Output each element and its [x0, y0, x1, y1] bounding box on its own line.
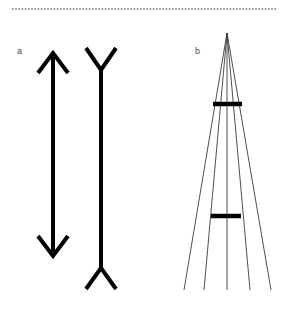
separator-dot — [274, 8, 276, 10]
separator-dot — [220, 8, 222, 10]
separator-dot — [146, 8, 148, 10]
separator-dot — [22, 8, 24, 10]
separator-dot — [172, 8, 174, 10]
separator-dot — [134, 8, 136, 10]
converging-line — [204, 33, 227, 290]
separator-dot — [31, 8, 33, 10]
separator-dot — [223, 8, 225, 10]
separator-dot — [175, 8, 177, 10]
separator-dot — [198, 8, 200, 10]
converging-line — [227, 33, 271, 290]
separator-dot — [47, 8, 49, 10]
separator-dot — [143, 8, 145, 10]
separator-dot — [60, 8, 62, 10]
dotted-separator — [12, 8, 276, 10]
separator-dot — [44, 8, 46, 10]
separator-dot — [25, 8, 27, 10]
separator-dot — [57, 8, 59, 10]
separator-dot — [118, 8, 120, 10]
separator-dot — [169, 8, 171, 10]
separator-dot — [178, 8, 180, 10]
separator-dot — [188, 8, 190, 10]
separator-dot — [239, 8, 241, 10]
separator-dot — [73, 8, 75, 10]
separator-dot — [41, 8, 43, 10]
separator-dot — [204, 8, 206, 10]
separator-dot — [124, 8, 126, 10]
separator-dot — [191, 8, 193, 10]
separator-dot — [201, 8, 203, 10]
separator-dot — [214, 8, 216, 10]
separator-dot — [268, 8, 270, 10]
separator-dot — [89, 8, 91, 10]
separator-dot — [28, 8, 30, 10]
separator-dot — [210, 8, 212, 10]
figure-canvas — [0, 0, 289, 309]
separator-dot — [92, 8, 94, 10]
fin-bottom — [86, 268, 116, 289]
separator-dot — [150, 8, 152, 10]
separator-dot — [130, 8, 132, 10]
separator-dot — [242, 8, 244, 10]
separator-dot — [105, 8, 107, 10]
separator-dot — [258, 8, 260, 10]
separator-dot — [111, 8, 113, 10]
separator-dot — [226, 8, 228, 10]
panel-b-ponzo — [184, 33, 271, 290]
panel-a-muller-lyer — [38, 48, 116, 289]
separator-dot — [98, 8, 100, 10]
separator-dot — [76, 8, 78, 10]
separator-dot — [249, 8, 251, 10]
separator-dot — [182, 8, 184, 10]
separator-dot — [271, 8, 273, 10]
separator-dot — [86, 8, 88, 10]
separator-dot — [95, 8, 97, 10]
separator-dot — [166, 8, 168, 10]
separator-dot — [162, 8, 164, 10]
separator-dot — [262, 8, 264, 10]
separator-dot — [79, 8, 81, 10]
separator-dot — [12, 8, 14, 10]
separator-dot — [156, 8, 158, 10]
panel-label-b: b — [195, 47, 200, 56]
separator-dot — [63, 8, 65, 10]
separator-dot — [34, 8, 36, 10]
separator-dot — [140, 8, 142, 10]
separator-dot — [159, 8, 161, 10]
separator-dot — [50, 8, 52, 10]
separator-dot — [127, 8, 129, 10]
separator-dot — [194, 8, 196, 10]
separator-dot — [114, 8, 116, 10]
fin-top — [86, 48, 116, 70]
separator-dot — [108, 8, 110, 10]
separator-dot — [236, 8, 238, 10]
separator-dot — [70, 8, 72, 10]
separator-dot — [246, 8, 248, 10]
separator-dot — [121, 8, 123, 10]
panel-label-a: a — [17, 47, 22, 56]
separator-dot — [54, 8, 56, 10]
separator-dot — [153, 8, 155, 10]
upper-bar — [213, 102, 242, 107]
illusion-figure: a b — [0, 0, 289, 309]
separator-dot — [252, 8, 254, 10]
separator-dot — [255, 8, 257, 10]
separator-dot — [230, 8, 232, 10]
lower-bar — [211, 214, 241, 219]
separator-dot — [82, 8, 84, 10]
separator-dot — [233, 8, 235, 10]
separator-dot — [265, 8, 267, 10]
separator-dot — [18, 8, 20, 10]
separator-dot — [38, 8, 40, 10]
converging-line — [184, 33, 227, 290]
separator-dot — [185, 8, 187, 10]
separator-dot — [217, 8, 219, 10]
separator-dot — [137, 8, 139, 10]
separator-dot — [66, 8, 68, 10]
separator-dot — [15, 8, 17, 10]
separator-dot — [207, 8, 209, 10]
converging-line — [227, 33, 250, 290]
separator-dot — [102, 8, 104, 10]
